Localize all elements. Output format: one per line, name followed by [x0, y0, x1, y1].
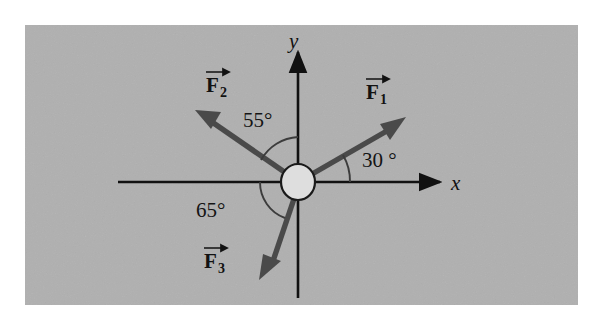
- f3-label-letter: F: [204, 249, 217, 273]
- vector-f1-label: F 1: [366, 76, 389, 107]
- angle-65-label: 65°: [196, 198, 225, 222]
- f2-label-letter: F: [206, 73, 219, 97]
- x-axis-label: x: [450, 171, 461, 195]
- force-vector-svg: x y F 1 F 2 F 3 30 ° 55° 65°: [0, 0, 593, 329]
- f3-label-subscript: 3: [218, 261, 225, 276]
- pivot-circle: [281, 164, 315, 200]
- angle-55-label: 55°: [243, 108, 272, 132]
- f2-label-subscript: 2: [220, 85, 227, 100]
- physics-force-diagram: x y F 1 F 2 F 3 30 ° 55° 65°: [0, 0, 593, 329]
- f1-label-subscript: 1: [380, 92, 387, 107]
- f1-label-letter: F: [366, 80, 379, 104]
- vector-f2-label: F 2: [206, 69, 229, 100]
- y-axis-label: y: [287, 29, 299, 53]
- angle-30-label: 30 °: [362, 148, 397, 172]
- vector-f3-label: F 3: [204, 245, 227, 276]
